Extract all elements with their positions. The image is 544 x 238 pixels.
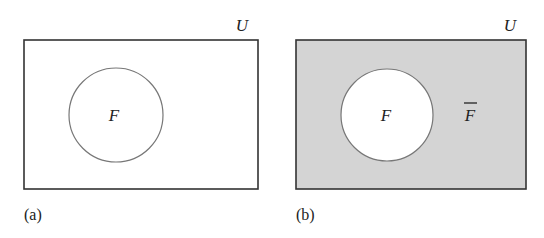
universe-label-a: U [236, 16, 250, 35]
set-f-label-a: F [108, 106, 120, 125]
venn-diagrams: F U (a) F F U (b) [0, 0, 544, 238]
diagram-a: F U (a) [24, 16, 258, 224]
diagram-b: F F U (b) [296, 16, 526, 224]
complement-label-b: F [464, 106, 476, 125]
set-f-label-b: F [380, 106, 392, 125]
caption-a: (a) [24, 206, 42, 224]
universe-label-b: U [504, 16, 518, 35]
caption-b: (b) [296, 206, 315, 224]
